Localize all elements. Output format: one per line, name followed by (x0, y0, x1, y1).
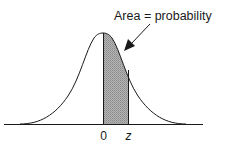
arrow-head-icon (124, 39, 135, 51)
origin-label: 0 (100, 129, 107, 143)
annotation-arrow-shaft (131, 24, 150, 44)
annotation-label: Area = probability (114, 9, 212, 23)
z-label: z (125, 129, 132, 143)
normal-distribution-diagram: Area = probability 0 z (0, 0, 229, 153)
